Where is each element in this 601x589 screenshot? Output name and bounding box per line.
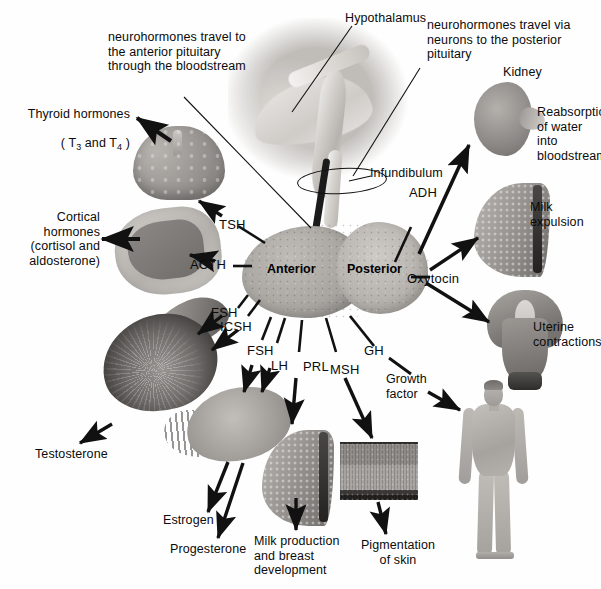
arrow-tsh-to-thyroid — [199, 201, 222, 216]
label-milk-production: Milk production and breast development — [254, 534, 350, 578]
label-lh: LH — [271, 359, 288, 374]
diagram-canvas: neurohormones travel to the anterior pit… — [0, 0, 601, 589]
arrow-oxytocin-to-uterus — [426, 283, 489, 322]
label-tsh: TSH — [219, 218, 246, 233]
label-thyroid-hormones: Thyroid hormones ( T3 and T4 ) — [5, 92, 130, 154]
label-infundibulum: Infundibulum — [370, 166, 443, 181]
arrow-lh-seg1 — [277, 318, 285, 343]
label-growth-factor: Growth factor — [386, 372, 446, 401]
label-progesterone: Progesterone — [170, 542, 246, 557]
arrow-fsh-female-seg2 — [244, 365, 252, 392]
thyroid-hormones-formula: ( T3 and T4 ) — [61, 136, 130, 150]
label-msh: MSH — [330, 363, 360, 378]
leader-anterior-route — [184, 97, 311, 228]
leader-hypothalamus — [292, 26, 352, 112]
arrow-pigmentation — [378, 502, 386, 534]
label-gh: GH — [364, 344, 384, 359]
arrow-lh-seg2 — [262, 368, 270, 392]
label-cortical-hormones: Cortical hormones (cortisol and aldoster… — [5, 210, 100, 268]
label-icsh: ICSH — [220, 320, 252, 335]
arrow-adh-seg1 — [395, 227, 411, 262]
arrow-estrogen — [208, 462, 228, 512]
arrow-msh-seg2 — [345, 378, 372, 438]
arrow-prl-seg1 — [299, 320, 302, 352]
arrow-fsh-male-seg1 — [238, 295, 248, 308]
arrow-msh-seg1 — [326, 318, 336, 352]
label-hypothalamus: Hypothalamus — [345, 11, 426, 26]
label-prl: PRL — [303, 360, 329, 375]
arrow-icsh-seg1 — [248, 300, 260, 316]
label-posterior-lobe: Posterior — [347, 262, 402, 276]
label-oxytocin: Oxytocin — [407, 272, 459, 287]
label-reabsorption: Reabsorption of water into bloodstream — [537, 105, 601, 163]
arrow-fsh-female-seg1 — [262, 317, 271, 340]
label-estrogen: Estrogen — [163, 513, 214, 528]
label-acth: ACTH — [190, 258, 226, 273]
label-uterine-contractions: Uterine contractions — [533, 320, 601, 349]
annotation-posterior-route: neurohormones travel via neurons to the … — [427, 18, 587, 62]
arrow-gh-seg1 — [350, 316, 374, 346]
arrow-testosterone — [80, 424, 112, 443]
label-kidney: Kidney — [503, 65, 542, 80]
label-adh: ADH — [409, 186, 437, 201]
label-fsh-female: FSH — [247, 344, 274, 359]
arrow-thyroid-hormones — [137, 118, 171, 141]
label-testosterone: Testosterone — [35, 447, 108, 462]
label-anterior-lobe: Anterior — [267, 262, 316, 276]
arrow-layer — [0, 0, 601, 589]
thyroid-hormones-line1: Thyroid hormones — [28, 107, 130, 121]
annotation-anterior-route: neurohormones travel to the anterior pit… — [108, 30, 258, 74]
arrow-prl-seg2 — [292, 378, 296, 424]
leader-infundibulum — [349, 176, 371, 181]
arrow-oxytocin-to-breast — [430, 238, 478, 270]
label-milk-expulsion: Milk expulsion — [530, 200, 592, 229]
label-pigmentation-of-skin: Pigmentation of skin — [352, 538, 444, 567]
leader-posterior-route — [353, 68, 420, 176]
